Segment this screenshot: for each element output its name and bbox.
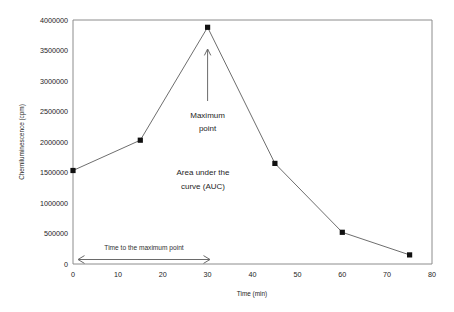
y-tick-label: 3500000 — [40, 46, 68, 55]
y-tick-label: 2500000 — [40, 107, 68, 116]
maximum-point-label-line1: Maximum — [190, 111, 225, 120]
x-tick-label: 80 — [428, 270, 436, 279]
x-tick-label: 50 — [293, 270, 301, 279]
x-tick-label: 40 — [249, 270, 257, 279]
y-tick-label: 3000000 — [40, 77, 68, 86]
time-to-maximum-point-label: Time to the maximum point — [104, 244, 183, 252]
x-tick-label: 70 — [383, 270, 391, 279]
y-tick-label: 500000 — [44, 229, 68, 238]
y-axis-title: Chemiluminescence (cpm) — [18, 104, 26, 180]
y-axis-tick-labels: 4000000 3500000 3000000 2500000 2000000 … — [40, 16, 68, 269]
y-tick-label: 1500000 — [40, 168, 68, 177]
y-tick-label: 1000000 — [40, 199, 68, 208]
y-tick-label: 2000000 — [40, 138, 68, 147]
data-point-marker — [407, 252, 412, 257]
data-point-marker — [272, 161, 277, 166]
x-axis-title: Time (min) — [237, 290, 267, 298]
y-tick-label: 0 — [64, 260, 68, 269]
x-tick-label: 60 — [338, 270, 346, 279]
maximum-point-label-line2: point — [199, 124, 217, 133]
x-tick-label: 20 — [159, 270, 167, 279]
line-chart: 4000000 3500000 3000000 2500000 2000000 … — [0, 0, 454, 312]
x-tick-label: 10 — [114, 270, 122, 279]
auc-label-line1: Area under the — [177, 168, 230, 177]
x-tick-label: 0 — [71, 270, 75, 279]
data-point-marker — [70, 168, 75, 173]
data-point-marker — [340, 230, 345, 235]
chart-container: 4000000 3500000 3000000 2500000 2000000 … — [0, 0, 454, 312]
chart-background — [0, 0, 454, 312]
x-tick-label: 30 — [204, 270, 212, 279]
data-point-marker — [138, 138, 143, 143]
auc-label-line2: curve (AUC) — [181, 182, 225, 191]
data-point-marker — [205, 25, 210, 30]
y-tick-label: 4000000 — [40, 16, 68, 25]
